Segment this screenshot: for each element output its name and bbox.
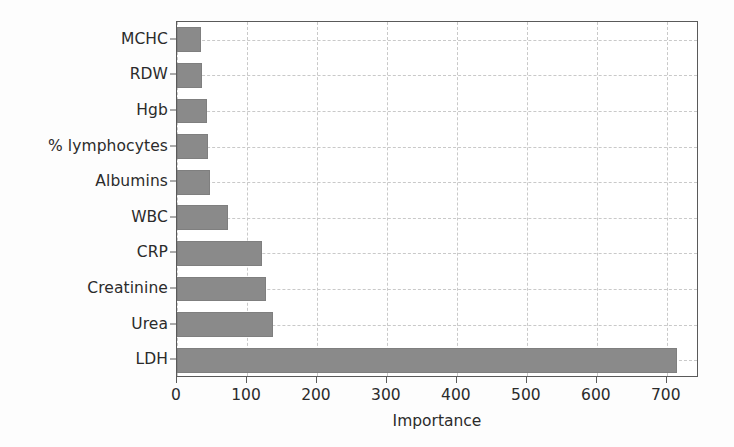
x-axis-tick bbox=[386, 377, 387, 383]
x-axis-tick bbox=[176, 377, 177, 383]
x-axis-tick bbox=[666, 377, 667, 383]
y-axis-label: LDH bbox=[0, 350, 168, 368]
plot-area bbox=[176, 21, 698, 377]
x-axis-tick-label: 500 bbox=[511, 386, 541, 404]
x-axis-title: Importance bbox=[176, 412, 698, 430]
bar bbox=[177, 63, 202, 88]
bar bbox=[177, 27, 201, 52]
y-axis-label: Urea bbox=[0, 315, 168, 333]
x-axis-tick bbox=[456, 377, 457, 383]
x-axis-tick-label: 200 bbox=[301, 386, 331, 404]
y-axis-label: Hgb bbox=[0, 101, 168, 119]
x-axis-tick-label: 0 bbox=[171, 386, 181, 404]
bar bbox=[177, 241, 262, 266]
bar bbox=[177, 277, 266, 302]
x-axis-tick bbox=[526, 377, 527, 383]
x-axis-tick-label: 400 bbox=[441, 386, 471, 404]
x-axis-tick bbox=[596, 377, 597, 383]
x-axis-tick-label: 100 bbox=[231, 386, 261, 404]
bar bbox=[177, 99, 207, 124]
y-axis-label: % lymphocytes bbox=[0, 137, 168, 155]
bar-series bbox=[177, 22, 697, 376]
bar bbox=[177, 312, 273, 337]
bar bbox=[177, 134, 208, 159]
x-axis-tick bbox=[316, 377, 317, 383]
bar bbox=[177, 205, 228, 230]
y-axis-label: Albumins bbox=[0, 172, 168, 190]
x-axis-tick-label: 300 bbox=[371, 386, 401, 404]
y-axis-label: Creatinine bbox=[0, 279, 168, 297]
y-axis-label: MCHC bbox=[0, 30, 168, 48]
y-axis-label: CRP bbox=[0, 243, 168, 261]
y-axis-label: WBC bbox=[0, 208, 168, 226]
bar-chart: LDHUreaCreatinineCRPWBCAlbumins% lymphoc… bbox=[0, 0, 734, 447]
x-axis-tick-label: 600 bbox=[581, 386, 611, 404]
x-axis-tick-label: 700 bbox=[651, 386, 681, 404]
bar bbox=[177, 348, 677, 373]
y-axis-label: RDW bbox=[0, 65, 168, 83]
x-axis-tick bbox=[246, 377, 247, 383]
bar bbox=[177, 170, 210, 195]
